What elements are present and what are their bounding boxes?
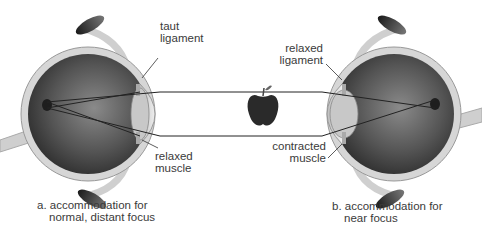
caption-line: normal, distant focus (37, 211, 155, 223)
label-line: contracted (264, 140, 326, 152)
relaxed-muscle-label: relaxed muscle (155, 150, 193, 174)
label-line: relaxed (155, 150, 193, 162)
ligament-pointer-right (326, 64, 342, 80)
label-line: taut (160, 20, 203, 32)
caption-line: near focus (332, 212, 443, 224)
contracted-muscle-label: contracted muscle (264, 140, 326, 164)
lens-right (330, 90, 358, 138)
label-line: ligament (277, 54, 323, 66)
label-line: muscle (155, 162, 193, 174)
relaxed-ligament-label: relaxed ligament (277, 42, 323, 66)
right-eye (322, 12, 482, 212)
label-line: relaxed (277, 42, 323, 54)
caption-line: b. accommodation for (332, 200, 443, 212)
label-line: muscle (264, 152, 326, 164)
caption-line: a. accommodation for (37, 199, 155, 211)
caption-a: a. accommodation for normal, distant foc… (37, 199, 155, 223)
left-eye (0, 12, 160, 212)
caption-b: b. accommodation for near focus (332, 200, 443, 224)
taut-ligament-label: taut ligament (160, 20, 203, 44)
label-line: ligament (160, 32, 203, 44)
retina-focus-right (430, 98, 440, 110)
light-rays (160, 92, 322, 136)
ligament-pointer-left (142, 58, 158, 78)
